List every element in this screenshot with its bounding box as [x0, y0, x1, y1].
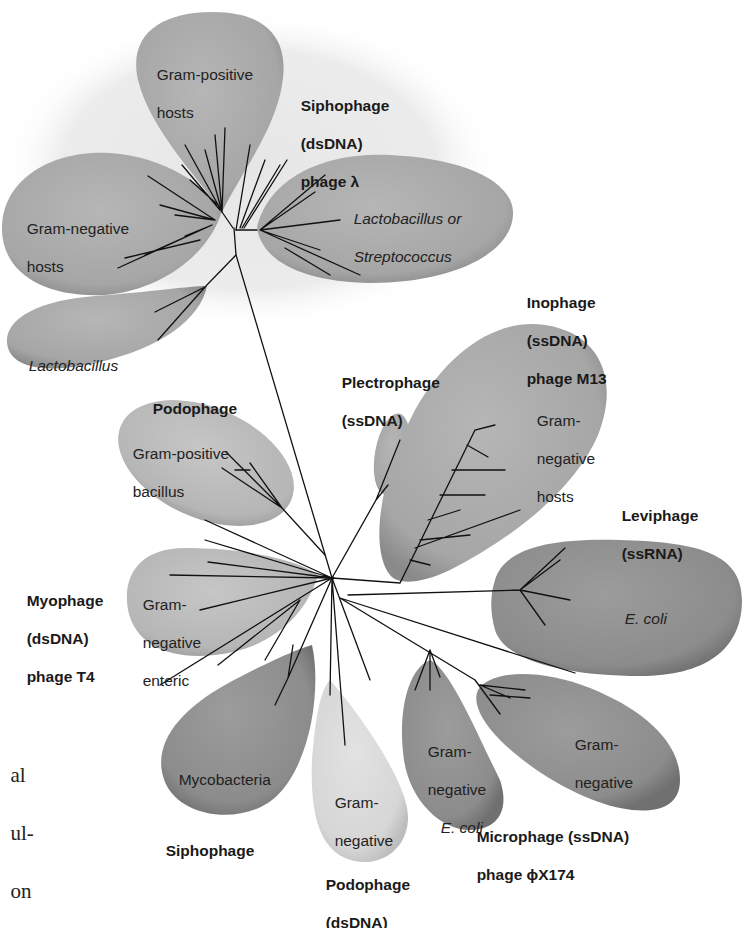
clade-mycobacteria: Mycobacteria [170, 752, 271, 790]
clade-lactobacillus-streptococcus: Lactobacillus or Streptococcus [345, 191, 461, 267]
group-label-line: Siphophage [166, 842, 255, 859]
group-podophage-t7: Podophage (dsDNA) phage T7 [317, 857, 410, 928]
clade-label-line: Lactobacillus or [354, 210, 462, 227]
margin-text-line: on [11, 879, 32, 903]
group-label-line: Podophage [326, 876, 410, 893]
group-podophage-top: Podophage [144, 381, 237, 419]
group-label-line: phage λ [301, 173, 360, 190]
tree-root-node [332, 577, 335, 580]
group-label-line: (ssDNA) [527, 332, 588, 349]
group-label-line: Siphophage [301, 97, 390, 114]
group-label-line: (dsDNA) [27, 630, 89, 647]
clade-label-line: E. coli [625, 610, 667, 627]
clade-label-line: Gram-positive [133, 445, 229, 462]
group-label-line: phage ϕX174 [477, 866, 575, 883]
clade-gram-positive-hosts: Gram-positive hosts [148, 47, 253, 123]
group-inophage: Inophage (ssDNA) phage M13 [518, 275, 607, 388]
group-siphophage-lambda: Siphophage (dsDNA) phage λ [292, 78, 389, 191]
group-label-line: (ssDNA) [342, 412, 403, 429]
clade-label-line: Gram- [335, 794, 379, 811]
clade-lactobacillus: Lactobacillus [20, 338, 118, 376]
clade-label-line: Gram- [143, 596, 187, 613]
clade-gram-negative-enteric: Gram- negative enteric [134, 577, 201, 690]
group-siphophage-myco: Siphophage [157, 823, 254, 861]
margin-body-text: al ul- on ses da- [0, 732, 37, 928]
clade-label-line: Gram-negative [27, 220, 130, 237]
clade-label-line: Gram- [428, 743, 472, 760]
clade-gram-positive-bacillus: Gram-positive bacillus [124, 426, 229, 502]
group-label-line: Podophage [153, 400, 237, 417]
group-label-line: phage M13 [527, 370, 607, 387]
clade-gram-negative-hosts: Gram-negative hosts [18, 201, 129, 277]
group-label-line: Inophage [527, 294, 596, 311]
group-plectrophage: Plectrophage (ssDNA) [333, 355, 440, 431]
group-label-line: (dsDNA) [326, 914, 388, 928]
group-microphage: Microphage (ssDNA) phage ϕX174 [468, 809, 629, 885]
group-label-line: Microphage (ssDNA) [477, 828, 629, 845]
clade-label-line: hosts [157, 104, 194, 121]
clade-label-line: negative [335, 832, 394, 849]
clade-label-line: Gram-positive [157, 66, 253, 83]
clade-label-line: hosts [537, 488, 574, 505]
clade-gram-negative-t7: Gram- negative [326, 775, 393, 851]
clade-label-line: negative [575, 774, 634, 791]
group-label-line: Myophage [27, 592, 104, 609]
clade-ecoli-leviphage: E. coli [616, 591, 667, 629]
group-label-line: phage T4 [27, 668, 95, 685]
clade-label-line: enteric [143, 672, 190, 689]
clade-label-line: negative [428, 781, 487, 798]
clade-gram-negative-hosts-inophage: Gram- negative hosts [528, 393, 595, 506]
clade-label-line: Gram- [537, 412, 581, 429]
clade-label-line: negative [143, 634, 202, 651]
clade-label-line: Gram- [575, 736, 619, 753]
group-label-line: (dsDNA) [301, 135, 363, 152]
group-myophage: Myophage (dsDNA) phage T4 [18, 573, 103, 686]
group-leviphage: Leviphage (ssRNA) [613, 488, 698, 564]
clade-label-line: hosts [27, 258, 64, 275]
clade-label-line: bacillus [133, 483, 185, 500]
group-label-line: (ssRNA) [622, 545, 683, 562]
clade-label-line: Lactobacillus [29, 357, 119, 374]
clade-label-line: negative [537, 450, 596, 467]
group-label-line: Plectrophage [342, 374, 440, 391]
group-label-line: Leviphage [622, 507, 699, 524]
margin-text-line: al [11, 763, 26, 787]
clade-gram-negative-microphage: Gram- negative [566, 717, 633, 793]
clade-label-line: Mycobacteria [179, 771, 271, 788]
margin-text-line: ul- [11, 821, 34, 845]
clade-label-line: Streptococcus [354, 248, 452, 265]
